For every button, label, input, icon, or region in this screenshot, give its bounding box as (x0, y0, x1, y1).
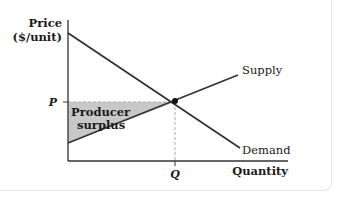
y-axis-label-line2: ($/unit) (13, 30, 63, 44)
x-axis-label: Quantity (232, 164, 288, 178)
supply-demand-chart: Price ($/unit) P Q Producer surplus Supp… (0, 0, 339, 198)
y-axis-label-line1: Price (29, 16, 62, 30)
p-tick-label: P (48, 96, 58, 109)
producer-surplus-label-line1: Producer (71, 105, 131, 119)
supply-label: Supply (242, 63, 283, 77)
producer-surplus-label-line2: surplus (77, 118, 125, 132)
demand-label: Demand (242, 143, 291, 157)
equilibrium-point (172, 98, 178, 104)
q-tick-label: Q (170, 168, 180, 181)
